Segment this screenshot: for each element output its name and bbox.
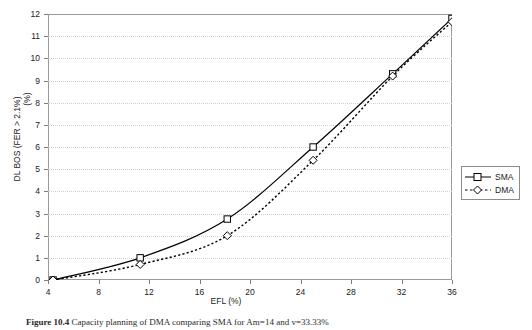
- legend-item-dma: DMA: [465, 183, 514, 196]
- y-tick-label: 8: [18, 98, 40, 108]
- y-tick-label: 4: [18, 186, 40, 196]
- data-point-sma: [224, 216, 230, 222]
- y-tick-label: 11: [18, 31, 40, 41]
- y-tick-label: 0: [18, 275, 40, 285]
- y-tick-label: 2: [18, 231, 40, 241]
- legend-label-dma: DMA: [495, 185, 514, 195]
- y-tick-label: 12: [18, 9, 40, 19]
- y-tick-label: 1: [18, 253, 40, 263]
- y-tick-label: 5: [18, 164, 40, 174]
- y-tick-label: 6: [18, 142, 40, 152]
- x-tick-mark: [351, 280, 352, 284]
- data-point-dma: [223, 232, 231, 240]
- figure-caption-text: Capacity planning of DMA comparing SMA f…: [72, 317, 329, 327]
- y-tick-label: 10: [18, 53, 40, 63]
- x-tick-mark: [250, 280, 251, 284]
- legend-item-sma: SMA: [465, 170, 514, 183]
- x-tick-mark: [452, 280, 453, 284]
- x-tick-mark: [402, 280, 403, 284]
- legend-swatch-sma: [465, 171, 491, 183]
- plot-area: [48, 14, 452, 280]
- figure-caption-number: Figure 10.4: [26, 317, 69, 327]
- legend: SMA DMA: [461, 166, 520, 200]
- y-tick-label: 7: [18, 120, 40, 130]
- x-tick-mark: [200, 280, 201, 284]
- legend-label-sma: SMA: [495, 172, 513, 182]
- series-line-sma: [53, 18, 452, 280]
- figure-root: DL BOS (FER > 2.1%) (%) 0123456789101112…: [0, 0, 532, 330]
- data-series-layer: [48, 14, 452, 280]
- y-tick-label: 3: [18, 209, 40, 219]
- x-axis-title: EFL (%): [0, 296, 452, 306]
- y-tick-label: 9: [18, 76, 40, 86]
- data-point-dma: [136, 260, 144, 268]
- data-point-sma: [310, 144, 316, 150]
- x-tick-mark: [149, 280, 150, 284]
- series-line-dma: [53, 22, 452, 280]
- figure-caption: Figure 10.4 Capacity planning of DMA com…: [26, 317, 512, 330]
- x-tick-mark: [99, 280, 100, 284]
- x-tick-mark: [301, 280, 302, 284]
- x-tick-mark: [48, 280, 49, 284]
- legend-swatch-dma: [465, 184, 491, 196]
